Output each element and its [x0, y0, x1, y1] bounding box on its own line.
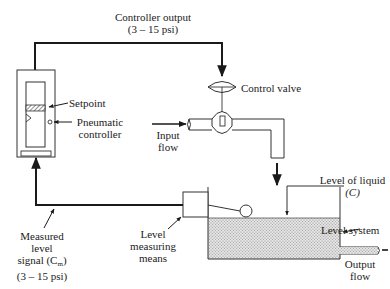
measured-signal-label-line4: (3 – 15 psi)	[10, 270, 74, 282]
output-flow-label: Output flow	[335, 258, 385, 282]
controller-output-label: Controller output (3 – 15 psi)	[88, 11, 218, 35]
controller-output-label-line2: (3 – 15 psi)	[88, 23, 218, 35]
level-system-label: Level system	[321, 224, 379, 236]
level-measuring-label-line1: Level	[126, 228, 180, 240]
input-flow-label-line2: flow	[150, 141, 186, 153]
pneumatic-controller-label: Pneumatic controller	[72, 116, 128, 140]
output-flow-label-line2: flow	[335, 270, 385, 282]
controller-output-label-line1: Controller output	[88, 11, 218, 23]
measured-signal-pointer	[44, 209, 54, 228]
level-of-liquid-label: Level of liquid (C)	[315, 174, 390, 198]
setpoint-label: Setpoint	[69, 97, 106, 109]
pneumatic-controller	[17, 70, 55, 157]
measured-signal-suffix: )	[63, 254, 67, 266]
output-flow-label-line1: Output	[335, 258, 385, 270]
level-of-liquid-label-line2: (C)	[315, 186, 390, 198]
level-measuring-means-label: Level measuring means	[126, 228, 180, 264]
measured-signal-line	[36, 158, 183, 205]
level-of-liquid-label-line1: Level of liquid	[315, 174, 390, 186]
level-measuring-label-line3: means	[126, 252, 180, 264]
measured-signal-prefix: signal (C	[17, 254, 57, 266]
measured-level-signal-label: Measured level signal (Cm) (3 – 15 psi)	[10, 230, 74, 282]
level-measuring-means	[183, 192, 252, 217]
pneumatic-controller-label-line1: Pneumatic	[72, 116, 128, 128]
input-flow-label: Input flow	[150, 129, 186, 153]
level-control-diagram: Controller output (3 – 15 psi) Control v…	[0, 0, 390, 289]
valve-outlet-pipe	[232, 119, 284, 185]
measured-signal-label-line1: Measured	[10, 230, 74, 242]
input-flow-label-line1: Input	[150, 129, 186, 141]
pneumatic-controller-label-line2: controller	[72, 128, 128, 140]
level-measuring-label-line2: measuring	[126, 240, 180, 252]
control-valve-label: Control valve	[241, 82, 301, 94]
control-valve	[208, 82, 236, 134]
measured-signal-label-line2: level	[10, 242, 74, 254]
controller-output-line	[35, 43, 222, 76]
measured-signal-label-line3: signal (Cm)	[10, 254, 74, 270]
